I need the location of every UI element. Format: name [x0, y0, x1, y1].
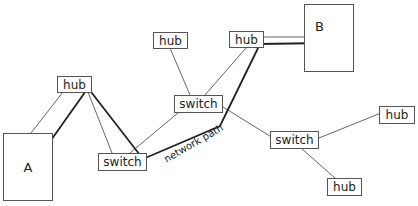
hub-label: hub [159, 34, 182, 48]
link-a-hub1 [31, 92, 63, 133]
link-switch3-hub5 [302, 149, 335, 178]
hub-label: hub [386, 108, 409, 122]
hub-node: hub [153, 32, 188, 49]
endpoint-b-label: B [315, 19, 324, 34]
link-hub1-switch1 [88, 92, 112, 153]
hub-node: hub [57, 76, 92, 93]
endpoint-a: A [3, 133, 53, 201]
hub-node: hub [379, 106, 415, 124]
switch-node: switch [270, 131, 319, 149]
link-hub2-switch2 [170, 48, 190, 95]
link-switch2-switch3 [223, 107, 273, 138]
switch-node: switch [98, 153, 147, 171]
switch-label: switch [275, 133, 313, 147]
hub-node: hub [229, 31, 264, 48]
hub-node: hub [327, 178, 362, 196]
hub-label: hub [333, 180, 356, 194]
switch-label: switch [103, 155, 141, 169]
switch-label: switch [179, 97, 217, 111]
endpoint-a-label: A [24, 160, 33, 175]
switch-node: switch [174, 95, 223, 113]
hub-label: hub [63, 78, 86, 92]
link-switch2-hub3 [205, 48, 246, 95]
link-switch3-hub4 [319, 113, 381, 138]
endpoint-b: B [304, 4, 354, 72]
hub-label: hub [235, 33, 258, 47]
